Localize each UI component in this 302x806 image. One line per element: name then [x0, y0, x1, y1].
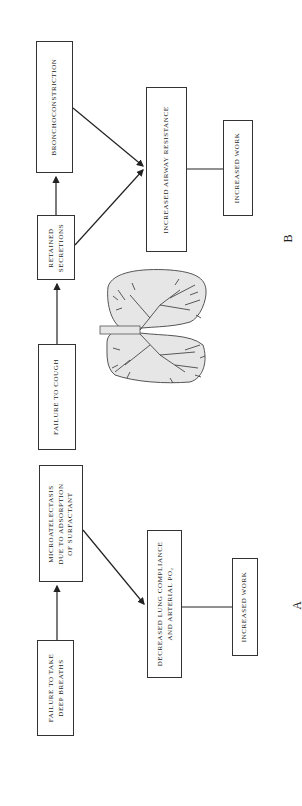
node-line: AND ARTERIAL pO₂ [165, 542, 175, 667]
panel-label-b: B [281, 234, 296, 242]
node-bronchoconstriction: BRONCHOCONSTRICTION [36, 41, 73, 173]
node-line: OF SURFACTANT [66, 483, 76, 564]
arrow-microatelectasis-to-compliance [83, 530, 144, 604]
panel-label-a: A [290, 601, 302, 610]
node-text: INCREASED WORK [233, 133, 243, 204]
lungs-illustration [100, 270, 206, 383]
node-line: DECREASED LUNG COMPLIANCE [155, 542, 165, 667]
node-airway-resistance: INCREASED AIRWAY RESISTANCE [146, 87, 187, 252]
node-line: FAILURE TO COUGH [52, 359, 62, 435]
node-text: MICROATELECTASIS DUE TO ADSORPTION OF SU… [47, 483, 76, 564]
node-retained-secretions: RETAINED SECRETIONS [37, 215, 75, 280]
node-line: FAILURE TO TAKE [46, 654, 56, 723]
node-line: DEEP BREATHS [56, 654, 66, 723]
node-line: SECRETIONS [56, 223, 66, 271]
node-text: DECREASED LUNG COMPLIANCE AND ARTERIAL p… [155, 542, 174, 667]
arrow-bronchoconstriction-to-resistance [73, 108, 143, 166]
node-text: FAILURE TO COUGH [52, 359, 62, 435]
node-failure-cough: FAILURE TO COUGH [38, 344, 76, 450]
node-line: DUE TO ADSORPTION [56, 483, 66, 564]
node-text: INCREASED AIRWAY RESISTANCE [162, 106, 172, 233]
node-line: BRONCHOCONSTRICTION [50, 59, 60, 156]
node-microatelectasis: MICROATELECTASIS DUE TO ADSORPTION OF SU… [39, 465, 83, 582]
arrow-secretions-to-resistance [75, 170, 143, 245]
node-line: MICROATELECTASIS [47, 483, 57, 564]
node-line: INCREASED WORK [240, 572, 250, 643]
node-text: INCREASED WORK [240, 572, 250, 643]
node-text: FAILURE TO TAKE DEEP BREATHS [46, 654, 65, 723]
node-line: INCREASED AIRWAY RESISTANCE [162, 106, 172, 233]
node-text: BRONCHOCONSTRICTION [50, 59, 60, 156]
node-line: RETAINED [47, 223, 57, 271]
node-increased-work-b: INCREASED WORK [223, 120, 253, 216]
node-text: RETAINED SECRETIONS [47, 223, 66, 271]
node-line: INCREASED WORK [233, 133, 243, 204]
node-increased-work-a: INCREASED WORK [232, 558, 258, 656]
node-failure-deep-breaths: FAILURE TO TAKE DEEP BREATHS [37, 640, 74, 736]
node-decreased-compliance: DECREASED LUNG COMPLIANCE AND ARTERIAL p… [147, 530, 182, 678]
